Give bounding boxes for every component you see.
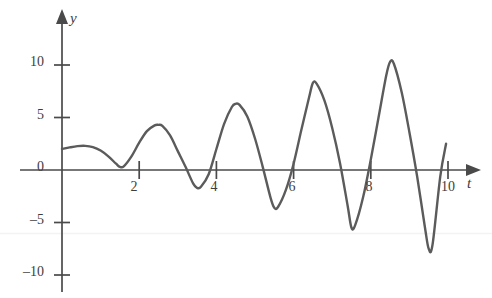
y-tick-label-5: 5 (12, 108, 44, 122)
x-tick-label-4: 4 (202, 180, 226, 194)
y-tick-label-10: 10 (12, 55, 44, 69)
x-axis-label: t (467, 176, 471, 191)
x-tick-label-8: 8 (357, 180, 381, 194)
y-tick-label-minus-10: –10 (8, 265, 44, 279)
chart-figure: 10 5 0 –5 –10 2 4 6 8 10 y t (0, 0, 492, 298)
plot-canvas (0, 0, 492, 298)
y-axis-label: y (70, 11, 77, 26)
x-tick-label-6: 6 (280, 180, 304, 194)
y-axis (56, 9, 68, 292)
data-series-line (62, 60, 446, 252)
y-axis-arrow-icon (56, 9, 68, 24)
x-axis (20, 164, 481, 176)
y-tick-label-0: 0 (12, 160, 44, 174)
x-tick-label-10: 10 (434, 180, 462, 194)
y-tick-label-minus-5: –5 (12, 213, 44, 227)
x-tick-label-2: 2 (122, 180, 146, 194)
